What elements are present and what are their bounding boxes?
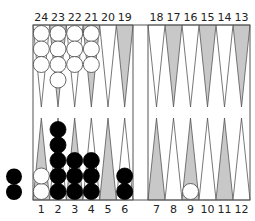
point-label-23: 23 xyxy=(51,11,65,24)
point-13[interactable] xyxy=(233,25,250,107)
bar[interactable] xyxy=(133,25,148,200)
point-label-7: 7 xyxy=(153,203,160,216)
white-checker[interactable] xyxy=(67,26,83,42)
point-label-12: 12 xyxy=(235,203,249,216)
black-checker[interactable] xyxy=(83,184,99,200)
white-checker[interactable] xyxy=(33,41,49,57)
point-17[interactable] xyxy=(165,25,182,107)
point-label-17: 17 xyxy=(167,11,181,24)
white-checker[interactable] xyxy=(50,41,66,57)
white-checker[interactable] xyxy=(183,184,199,200)
point-7[interactable] xyxy=(148,118,165,200)
black-checker[interactable] xyxy=(50,122,66,138)
white-checker[interactable] xyxy=(33,168,49,184)
black-checker[interactable] xyxy=(67,168,83,184)
borne-off-black-checker xyxy=(6,169,22,185)
point-8[interactable] xyxy=(165,118,182,200)
point-18[interactable] xyxy=(148,25,165,107)
black-checker[interactable] xyxy=(50,137,66,153)
point-16[interactable] xyxy=(182,25,199,107)
point-11[interactable] xyxy=(216,118,233,200)
point-label-15: 15 xyxy=(201,11,215,24)
point-19[interactable] xyxy=(116,25,133,107)
black-checker[interactable] xyxy=(117,184,133,200)
point-10[interactable] xyxy=(199,118,216,200)
point-label-18: 18 xyxy=(150,11,164,24)
point-label-14: 14 xyxy=(218,11,232,24)
point-label-4: 4 xyxy=(88,203,95,216)
point-label-19: 19 xyxy=(118,11,132,24)
white-checker[interactable] xyxy=(50,72,66,88)
point-label-22: 22 xyxy=(68,11,82,24)
white-checker[interactable] xyxy=(33,26,49,42)
point-label-10: 10 xyxy=(201,203,215,216)
black-checker[interactable] xyxy=(50,153,66,169)
point-label-6: 6 xyxy=(121,203,128,216)
white-checker[interactable] xyxy=(50,57,66,73)
point-14[interactable] xyxy=(216,25,233,107)
point-label-8: 8 xyxy=(170,203,177,216)
white-checker[interactable] xyxy=(67,41,83,57)
borne-off-black-checker xyxy=(6,184,22,200)
black-checker[interactable] xyxy=(50,168,66,184)
white-checker[interactable] xyxy=(33,57,49,73)
white-checker[interactable] xyxy=(50,26,66,42)
point-12[interactable] xyxy=(233,118,250,200)
black-checker[interactable] xyxy=(117,168,133,184)
point-label-2: 2 xyxy=(55,203,62,216)
point-label-20: 20 xyxy=(101,11,115,24)
point-label-5: 5 xyxy=(105,203,112,216)
point-label-3: 3 xyxy=(71,203,78,216)
white-checker[interactable] xyxy=(33,184,49,200)
point-label-9: 9 xyxy=(187,203,194,216)
point-label-1: 1 xyxy=(38,203,45,216)
point-20[interactable] xyxy=(100,25,117,107)
point-label-11: 11 xyxy=(218,203,232,216)
black-checker[interactable] xyxy=(67,184,83,200)
black-checker[interactable] xyxy=(83,153,99,169)
point-label-21: 21 xyxy=(84,11,98,24)
point-5[interactable] xyxy=(100,118,117,200)
black-checker[interactable] xyxy=(50,184,66,200)
point-15[interactable] xyxy=(199,25,216,107)
white-checker[interactable] xyxy=(83,57,99,73)
point-label-13: 13 xyxy=(235,11,249,24)
black-checker[interactable] xyxy=(83,168,99,184)
point-label-24: 24 xyxy=(34,11,48,24)
black-checker[interactable] xyxy=(67,153,83,169)
point-label-16: 16 xyxy=(184,11,198,24)
white-checker[interactable] xyxy=(67,57,83,73)
white-checker[interactable] xyxy=(83,26,99,42)
backgammon-board: 242322212019181716151413123456789101112 xyxy=(0,0,255,221)
white-checker[interactable] xyxy=(83,41,99,57)
